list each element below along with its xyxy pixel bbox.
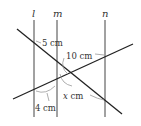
leader-5cm xyxy=(36,41,41,43)
label-m: m xyxy=(53,8,62,19)
transversal-descending xyxy=(17,29,122,114)
leader-10cm-a xyxy=(95,54,104,55)
label-n: n xyxy=(102,8,108,19)
label-l: l xyxy=(32,8,35,19)
label-xcm: x cm xyxy=(63,91,83,101)
parallel-lines-diagram: l m n 5 cm 10 cm 4 cm x cm xyxy=(0,0,141,126)
leader-4cm-b xyxy=(47,93,49,101)
label-x-unit: cm xyxy=(68,91,84,101)
label-10cm: 10 cm xyxy=(66,51,92,61)
label-4cm: 4 cm xyxy=(35,103,56,113)
label-5cm: 5 cm xyxy=(42,38,63,48)
leader-xcm-a xyxy=(60,74,72,86)
